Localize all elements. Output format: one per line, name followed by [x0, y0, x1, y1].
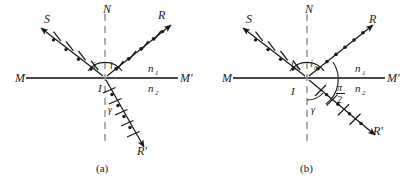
label-interface-right-a: M' — [179, 71, 193, 85]
reflected-ray-a — [107, 25, 171, 76]
label-incident-ray-a: S — [44, 12, 50, 26]
label-right-angle-numerator-b: π — [337, 82, 343, 93]
label-refracted-ray-b: R' — [372, 124, 383, 138]
caption-a: (a) — [96, 162, 109, 175]
label-angle-reflection-b: i 0 — [310, 58, 318, 71]
label-reflected-ray-b: R — [368, 12, 377, 26]
label-interface-right-b: M' — [386, 71, 400, 85]
label-normal-b: N — [304, 2, 314, 16]
label-n1-b: n — [355, 62, 361, 74]
label-point-of-incidence-b: I — [290, 85, 296, 97]
label-interface-left-b: M — [221, 71, 233, 85]
label-interface-left-a: M — [14, 71, 26, 85]
caption-b: (b) — [300, 162, 313, 175]
medium-labels-b: n 1 n 2 — [355, 62, 366, 97]
label-refracted-ray-a: R' — [136, 144, 147, 158]
label-right-angle-denominator-b: 2 — [337, 94, 342, 105]
label-angle-refraction-a: γ — [108, 104, 113, 115]
label-n2-sub-b: 2 — [362, 89, 366, 97]
label-point-of-incidence-a: I — [97, 82, 103, 94]
physics-figure: N S R R' M M' I i i γ n 1 n 2 (a) — [0, 0, 414, 181]
label-right-angle-b: π 2 — [336, 82, 345, 105]
label-n1-sub-a: 1 — [155, 69, 159, 77]
label-angle-refraction-b: γ — [311, 104, 316, 115]
angle-arc-gamma-b — [307, 93, 323, 100]
label-n2-b: n — [355, 82, 361, 94]
label-angle-incidence-main-b: i — [291, 58, 294, 69]
label-incident-ray-b: S — [246, 12, 252, 26]
label-n2-a: n — [148, 82, 154, 94]
label-normal-a: N — [102, 2, 112, 16]
label-n1-sub-b: 1 — [362, 69, 366, 77]
label-reflected-ray-a: R — [157, 8, 166, 22]
panel-b: N S R R' M M' I i 0 i 0 γ π 2 — [207, 0, 414, 181]
label-angle-incidence-a: i — [93, 60, 96, 71]
label-angle-reflection-a: i — [110, 60, 113, 71]
label-n1-a: n — [148, 62, 154, 74]
label-angle-reflection-main-b: i — [310, 58, 313, 69]
label-n2-sub-a: 2 — [155, 89, 159, 97]
medium-labels-a: n 1 n 2 — [148, 62, 159, 97]
panel-a: N S R R' M M' I i i γ n 1 n 2 (a) — [0, 0, 207, 181]
